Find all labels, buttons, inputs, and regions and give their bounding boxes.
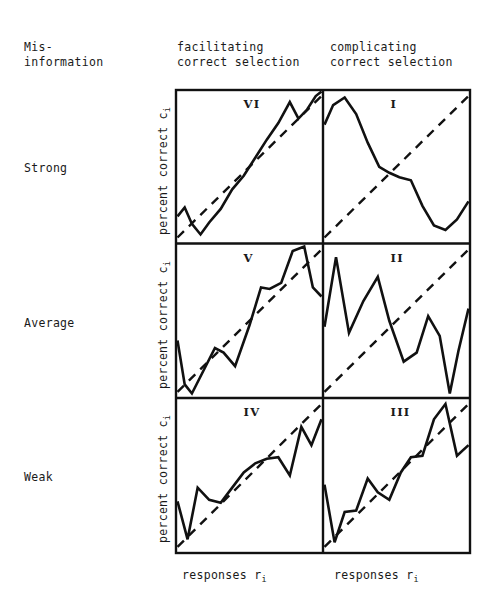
panel-tag-iii: III: [391, 405, 411, 419]
reference-line-i: [325, 96, 469, 237]
reference-line-v: [178, 250, 322, 392]
panel-iii: [325, 404, 469, 547]
reference-line-iii: [325, 404, 469, 547]
misinformation-panel-figure: Mis- information facilitating correct se…: [0, 0, 502, 609]
reference-line-iv: [178, 404, 322, 547]
panel-vi: [178, 92, 322, 238]
panel-v: [178, 247, 322, 394]
panel-tag-v: V: [244, 251, 254, 265]
panel-tag-ii: II: [391, 251, 404, 265]
data-line-ii: [325, 257, 469, 393]
panel-iv: [178, 404, 322, 547]
data-line-vi: [178, 92, 322, 235]
panel-ii: [325, 250, 469, 394]
data-line-iii: [325, 404, 469, 542]
data-line-iv: [178, 419, 322, 539]
panel-i: [325, 96, 469, 237]
panel-grid-plot: [0, 0, 502, 609]
panel-tag-iv: IV: [244, 405, 261, 419]
panel-tag-vi: VI: [244, 97, 261, 111]
data-line-i: [325, 98, 469, 230]
panel-tag-i: I: [391, 97, 398, 111]
